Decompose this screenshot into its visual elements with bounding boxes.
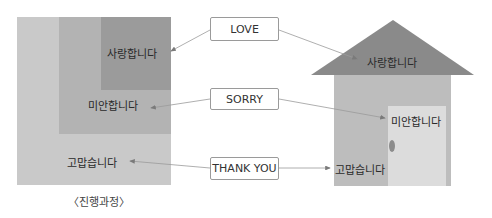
love-label: LOVE <box>230 23 259 36</box>
love-box: LOVE <box>210 17 279 41</box>
thank-you-box: THANK YOU <box>210 157 279 180</box>
thank-you-label: THANK YOU <box>212 162 276 175</box>
sorry-box: SORRY <box>210 88 279 110</box>
sorry-label: SORRY <box>226 93 263 106</box>
